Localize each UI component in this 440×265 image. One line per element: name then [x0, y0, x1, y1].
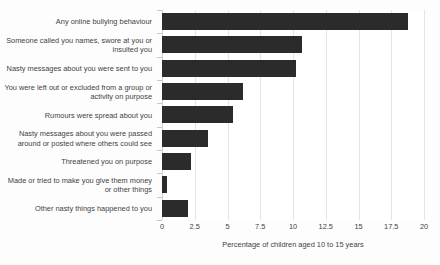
- bar: [162, 36, 302, 53]
- category-label: Someone called you names, swore at you o…: [3, 36, 152, 54]
- category-label: You were left out or excluded from a gro…: [3, 83, 152, 101]
- bar-row: [162, 10, 424, 33]
- x-axis-title: Percentage of children aged 10 to 15 yea…: [162, 240, 424, 249]
- category-label: Rumours were spread about you: [3, 111, 152, 120]
- bar-row: [162, 80, 424, 103]
- bar: [162, 130, 208, 147]
- value-axis: 02.557.51012.51517.520: [162, 220, 424, 236]
- x-tick-label: 10: [289, 222, 297, 231]
- bar-row: [162, 33, 424, 56]
- bar: [162, 60, 296, 77]
- x-tick-label: 5: [225, 222, 229, 231]
- bar-row: [162, 150, 424, 173]
- gridline-20: [424, 10, 425, 220]
- bar-row: [162, 197, 424, 220]
- x-tick-label: 17.5: [384, 222, 398, 231]
- x-tick-label: 2.5: [190, 222, 200, 231]
- x-tick-label: 20: [420, 222, 428, 231]
- category-label: Nasty messages about you were sent to yo…: [3, 64, 152, 73]
- bar: [162, 153, 191, 170]
- bar-row: [162, 127, 424, 150]
- bar-row: [162, 57, 424, 80]
- category-axis-labels: Any online bullying behaviourSomeone cal…: [0, 10, 157, 220]
- category-label: Made or tried to make you give them mone…: [3, 176, 152, 194]
- x-tick-label: 0: [160, 222, 164, 231]
- category-label: Any online bullying behaviour: [3, 17, 152, 26]
- category-label: Other nasty things happened to you: [3, 204, 152, 213]
- category-label: Threatened you on purpose: [3, 157, 152, 166]
- bar-row: [162, 173, 424, 196]
- bar: [162, 13, 408, 30]
- plot-area: [162, 10, 424, 220]
- bar: [162, 200, 188, 217]
- bar: [162, 176, 167, 193]
- x-tick-label: 15: [354, 222, 362, 231]
- x-tick-label: 7.5: [255, 222, 265, 231]
- x-tick-label: 12.5: [319, 222, 333, 231]
- category-label: Nasty messages about you were passed aro…: [3, 129, 152, 147]
- bar: [162, 83, 243, 100]
- bar-row: [162, 103, 424, 126]
- bar: [162, 106, 233, 123]
- bar-chart: Any online bullying behaviourSomeone cal…: [0, 0, 440, 265]
